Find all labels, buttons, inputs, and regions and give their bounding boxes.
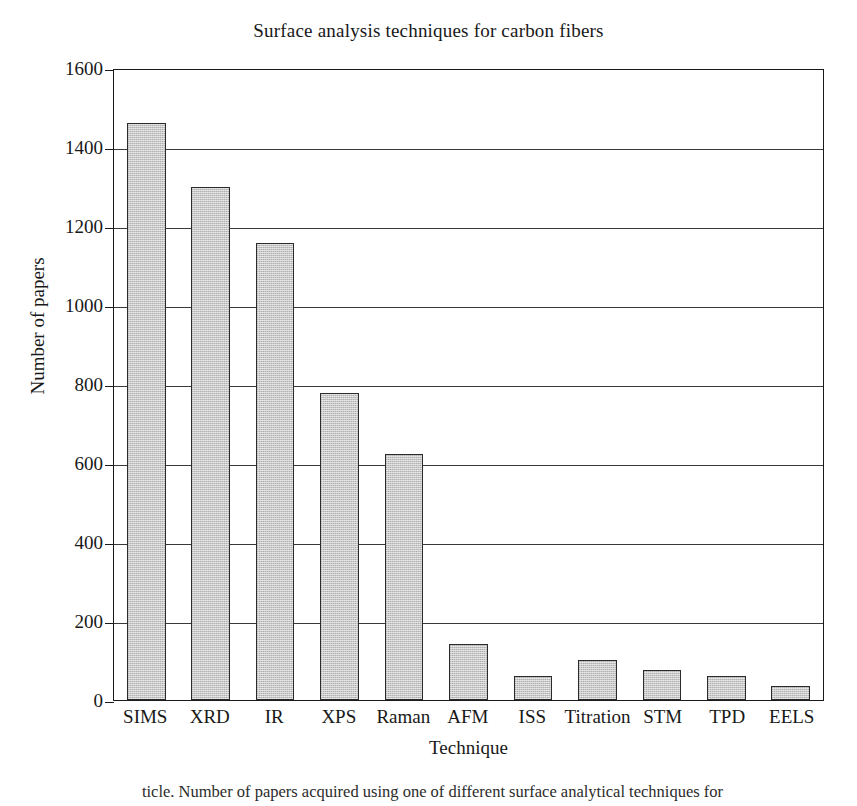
y-axis-tick-label: 0 [41,691,103,710]
y-axis-tick [105,149,114,150]
bar-stm[interactable] [643,670,682,700]
bar-xps[interactable] [320,393,359,700]
bar-afm[interactable] [449,644,488,700]
bar-eels[interactable] [771,686,810,700]
bar-slot [501,70,565,700]
y-axis-tick-label: 1400 [41,138,103,157]
bar-slot [114,70,178,700]
bar-slot [372,70,436,700]
x-axis-tick-label: TPD [695,706,760,728]
x-axis-tick-label: STM [630,706,695,728]
bar-titration[interactable] [578,660,617,700]
chart-title: Surface analysis techniques for carbon f… [0,20,857,42]
y-axis-tick [105,465,114,466]
y-axis-tick-label: 1600 [41,59,103,78]
bar-slot [694,70,758,700]
x-axis-tick-label: EELS [759,706,824,728]
x-axis-tick-label: XRD [178,706,243,728]
bar-slot [630,70,694,700]
y-axis-tick [105,70,114,71]
y-axis-tick-label: 800 [41,375,103,394]
y-axis-tick [105,386,114,387]
plot-area [113,69,824,701]
bar-slot [243,70,307,700]
x-axis-tick-label: AFM [436,706,501,728]
bar-tpd[interactable] [707,676,746,700]
x-axis-tick-label: Raman [371,706,436,728]
y-axis-tick [105,623,114,624]
bar-iss[interactable] [514,676,553,700]
x-axis-tick-label: XPS [307,706,372,728]
x-axis-title: Technique [113,737,824,759]
bar-slot [565,70,629,700]
y-axis-tick-label: 400 [41,533,103,552]
bar-slot [178,70,242,700]
y-axis-tick-label: 600 [41,454,103,473]
bar-series [114,70,823,700]
y-axis-tick-label: 200 [41,612,103,631]
bar-xrd[interactable] [191,187,230,700]
x-axis-tick-label: IR [242,706,307,728]
x-axis-tick-label: SIMS [113,706,178,728]
x-axis-tick-label: ISS [500,706,565,728]
y-axis-tick [105,228,114,229]
bar-sims[interactable] [127,123,166,700]
x-axis-tick-labels: SIMSXRDIRXPSRamanAFMISSTitrationSTMTPDEE… [113,706,824,728]
bar-raman[interactable] [385,454,424,700]
bar-slot [436,70,500,700]
bar-slot [759,70,823,700]
bar-slot [307,70,371,700]
bar-chart-figure: Surface analysis techniques for carbon f… [0,0,857,806]
bar-ir[interactable] [256,243,295,700]
y-axis-tick-labels: 16001400120010008006004002000 [37,69,103,701]
caption-fragment: ticle. Number of papers acquired using o… [8,782,857,802]
y-axis-tick [105,702,114,703]
y-axis-tick-label: 1200 [41,217,103,236]
y-axis-tick [105,307,114,308]
x-axis-tick-label: Titration [565,706,631,728]
y-axis-tick [105,544,114,545]
y-axis-tick-label: 1000 [41,296,103,315]
